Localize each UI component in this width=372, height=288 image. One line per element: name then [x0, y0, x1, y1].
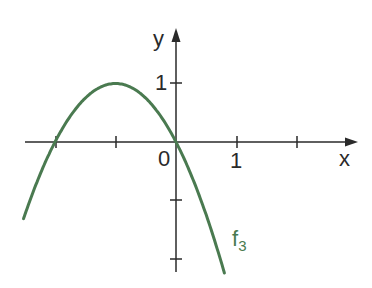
curve-label-f3: f3: [232, 228, 246, 253]
y-axis-label: y: [153, 28, 164, 50]
x-tick-label-1: 1: [230, 150, 242, 172]
x-axis-label: x: [339, 148, 350, 170]
origin-label: 0: [158, 148, 170, 170]
coordinate-plot: [0, 0, 372, 288]
y-axis-arrow-icon: [172, 28, 181, 42]
y-tick-label-1: 1: [155, 72, 167, 94]
curve-f3: [24, 84, 225, 274]
